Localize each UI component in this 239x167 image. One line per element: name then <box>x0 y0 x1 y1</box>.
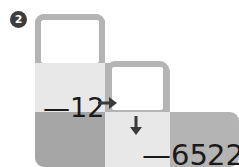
worksheet-problem: 2 —12 —65 22 <box>0 0 239 167</box>
answer-box-top[interactable] <box>35 14 105 69</box>
puzzle-grid: —12 —65 22 <box>35 14 239 167</box>
operation-label: —12 <box>43 92 104 123</box>
arrow-right-icon <box>97 94 119 116</box>
problem-number-badge: 2 <box>10 11 27 28</box>
arrow-down-icon <box>127 115 145 141</box>
answer-box-middle-value[interactable] <box>112 67 163 110</box>
result-label: —65 <box>142 138 208 167</box>
target-label: 22 <box>207 138 239 167</box>
answer-box-top-value[interactable] <box>41 20 99 63</box>
